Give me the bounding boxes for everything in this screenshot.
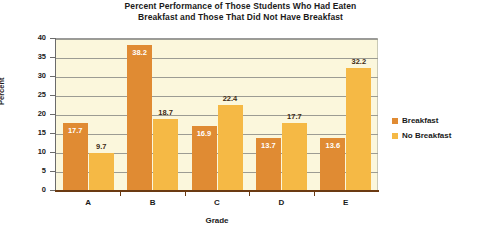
bar-E-breakfast: 13.6: [320, 138, 345, 190]
y-axis-tick-label: 5: [20, 166, 46, 175]
x-axis-tick: [314, 192, 315, 196]
x-axis-line: [55, 190, 379, 192]
bar-value-label: 32.2: [346, 57, 371, 66]
bar-A-no-breakfast: 9.7: [89, 153, 114, 190]
legend-item-label: No Breakfast: [402, 131, 451, 140]
y-axis-tick: [50, 133, 55, 134]
x-axis-tick: [120, 192, 121, 196]
bar-E-no-breakfast: 32.2: [346, 68, 371, 190]
y-axis-tick: [50, 57, 55, 58]
bar-value-label: 13.6: [320, 141, 345, 150]
bar-value-label: 9.7: [89, 142, 114, 151]
bar-B-breakfast: 38.2: [127, 45, 152, 190]
gridline: [56, 58, 378, 59]
x-axis-tick-label: E: [314, 198, 378, 207]
bar-A-breakfast: 17.7: [63, 123, 88, 190]
y-axis-tick: [50, 95, 55, 96]
y-axis-tick-label: 10: [20, 147, 46, 156]
bar-C-no-breakfast: 22.4: [218, 105, 243, 190]
bar-value-label: 22.4: [218, 94, 243, 103]
x-axis-tick-label: B: [120, 198, 184, 207]
y-axis-tick-label: 15: [20, 128, 46, 137]
y-axis-line: [55, 38, 56, 191]
y-axis-tick: [50, 152, 55, 153]
bar-C-breakfast: 16.9: [192, 126, 217, 190]
bar-B-no-breakfast: 18.7: [153, 119, 178, 190]
bar-value-label: 38.2: [127, 48, 152, 57]
y-axis-tick-label: 20: [20, 109, 46, 118]
legend-swatch-icon: [392, 133, 398, 139]
y-axis-tick: [50, 114, 55, 115]
gridline: [56, 39, 378, 40]
x-axis-tick-label: C: [185, 198, 249, 207]
bar-value-label: 13.7: [256, 141, 281, 150]
bar-value-label: 17.7: [282, 112, 307, 121]
chart-title: Percent Performance of Those Students Wh…: [0, 1, 481, 23]
chart-legend: BreakfastNo Breakfast: [392, 116, 451, 146]
bar-D-no-breakfast: 17.7: [282, 123, 307, 190]
y-axis-tick-label: 35: [20, 52, 46, 61]
legend-item-label: Breakfast: [402, 116, 438, 125]
bar-value-label: 16.9: [192, 129, 217, 138]
y-axis-tick: [50, 76, 55, 77]
x-axis-tick-label: A: [56, 198, 120, 207]
y-axis-tick-label: 30: [20, 71, 46, 80]
bar-value-label: 18.7: [153, 108, 178, 117]
x-axis-tick: [185, 192, 186, 196]
x-axis-tick-label: D: [249, 198, 313, 207]
y-axis-tick-label: 0: [20, 185, 46, 194]
x-axis-title: Grade: [56, 216, 378, 225]
bar-value-label: 17.7: [63, 126, 88, 135]
x-axis-tick: [249, 192, 250, 196]
legend-item-breakfast[interactable]: Breakfast: [392, 116, 451, 125]
legend-item-no-breakfast[interactable]: No Breakfast: [392, 131, 451, 140]
legend-swatch-icon: [392, 118, 398, 124]
bar-chart: Percent Performance of Those Students Wh…: [0, 0, 481, 239]
chart-title-line-2: Breakfast and Those That Did Not Have Br…: [0, 12, 481, 23]
y-axis-title: Percent: [0, 77, 6, 105]
gridline: [56, 77, 378, 78]
y-axis-tick-label: 25: [20, 90, 46, 99]
y-axis-tick: [50, 190, 55, 191]
y-axis-tick-label: 40: [20, 33, 46, 42]
bar-D-breakfast: 13.7: [256, 138, 281, 190]
y-axis-tick: [50, 171, 55, 172]
chart-title-line-1: Percent Performance of Those Students Wh…: [0, 1, 481, 12]
y-axis-tick: [50, 38, 55, 39]
